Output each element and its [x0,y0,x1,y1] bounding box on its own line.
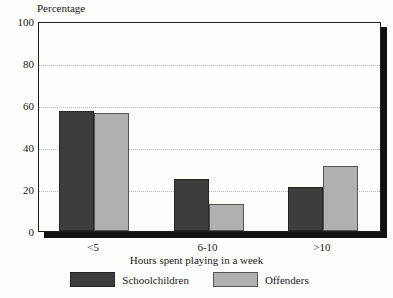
plot-frame-shadow-right [381,27,387,238]
legend-label: Schoolchildren [122,274,189,286]
x-axis-tick-label: 6-10 [197,241,217,253]
x-axis-title: Hours spent playing in a week [0,254,393,266]
bar-chart: Percentage 020406080100 <56-10>10 Hours … [0,0,393,298]
dark-square-swatch [70,272,115,287]
plot-frame-shadow-bottom [44,232,387,238]
x-axis-tick-label: >10 [313,241,330,253]
x-axis-tick-label: <5 [87,241,99,253]
y-axis-tick-label: 40 [2,142,34,154]
y-axis-tick-label: 80 [2,58,34,70]
y-axis-tick-label: 60 [2,100,34,112]
bar-schoolchildren-0 [59,111,94,231]
bar-offenders-1 [209,204,244,231]
y-axis-title: Percentage [37,2,85,14]
legend-item-schoolchildren: Schoolchildren [70,272,189,287]
light-square-swatch [213,272,258,287]
gridline [39,65,380,66]
bar-schoolchildren-2 [288,187,323,231]
gridline [39,107,380,108]
y-axis-tick-label: 100 [2,16,34,28]
legend-item-offenders: Offenders [213,272,309,287]
bar-offenders-0 [94,113,129,231]
plot-area [38,22,381,232]
y-axis-tick-label: 20 [2,184,34,196]
y-axis-tick-label: 0 [2,226,34,238]
chart-legend: SchoolchildrenOffenders [0,272,393,287]
legend-label: Offenders [265,274,309,286]
bar-offenders-2 [323,166,358,231]
bar-schoolchildren-1 [174,179,209,232]
